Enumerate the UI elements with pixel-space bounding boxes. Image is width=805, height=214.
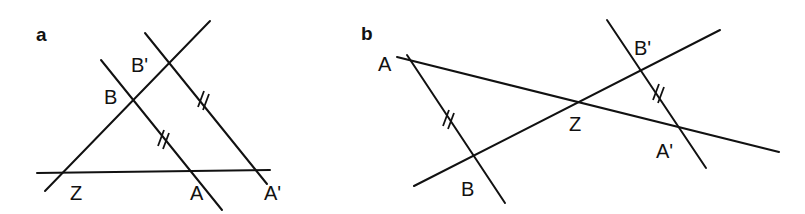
point-label-b: B	[461, 178, 474, 200]
equal-tick-marks-b-prime-a-prime	[198, 91, 209, 110]
line-b-prime-a-prime	[145, 33, 267, 184]
panel-b: b A B Z A' B'	[361, 20, 779, 203]
line-a-b	[407, 55, 505, 203]
point-label-a: A	[190, 182, 204, 204]
equal-tick-marks-b-prime-a-prime	[653, 84, 664, 103]
point-label-a-prime: A'	[656, 140, 673, 162]
panel-b-label: b	[361, 23, 373, 44]
geometry-figure: a Z A A' B B' b A B	[0, 0, 805, 214]
line-b-z-b-prime	[414, 30, 720, 186]
point-label-z: Z	[70, 182, 82, 204]
point-label-z: Z	[569, 113, 581, 135]
point-label-a-prime: A'	[264, 182, 281, 204]
point-label-b: B	[104, 86, 117, 108]
line-a-z-a-prime	[397, 57, 779, 152]
point-label-b-prime: B'	[131, 54, 148, 76]
panel-a: a Z A A' B B'	[36, 21, 281, 210]
point-label-a: A	[378, 53, 392, 75]
point-label-b-prime: B'	[634, 37, 651, 59]
panel-a-label: a	[36, 24, 47, 45]
line-z-a-a-prime	[37, 170, 270, 173]
